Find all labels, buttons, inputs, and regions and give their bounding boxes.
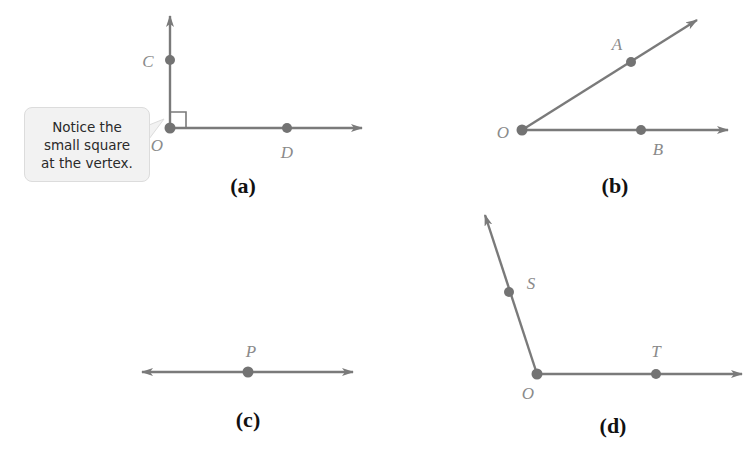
point-o-a bbox=[165, 123, 176, 134]
point-t bbox=[651, 369, 661, 379]
callout-notice-square: Notice the small square at the vertex. bbox=[24, 107, 150, 182]
callout-line-2: small square bbox=[44, 136, 130, 154]
label-p: P bbox=[246, 342, 256, 362]
point-s bbox=[504, 287, 514, 297]
label-o-a: O bbox=[151, 136, 163, 156]
point-o-b bbox=[517, 125, 528, 136]
callout-line-3: at the vertex. bbox=[41, 154, 133, 172]
figure-a-right-angle bbox=[149, 16, 362, 139]
label-s: S bbox=[527, 274, 536, 294]
point-b bbox=[636, 125, 646, 135]
label-c: C bbox=[142, 52, 153, 72]
callout-line-1: Notice the bbox=[52, 118, 122, 136]
point-d bbox=[282, 123, 292, 133]
label-o-d: O bbox=[522, 384, 534, 404]
caption-a: (a) bbox=[230, 173, 256, 199]
geometry-canvas bbox=[0, 0, 755, 456]
angle-figures-diagram: Notice the small square at the vertex. C… bbox=[0, 0, 755, 456]
caption-c: (c) bbox=[236, 407, 260, 433]
label-b: B bbox=[653, 140, 663, 160]
caption-b: (b) bbox=[602, 173, 629, 199]
figure-b-acute-angle bbox=[517, 20, 729, 136]
point-a bbox=[626, 57, 636, 67]
label-d: D bbox=[281, 143, 293, 163]
point-o-d bbox=[532, 369, 543, 380]
caption-d: (d) bbox=[600, 413, 627, 439]
label-o-b: O bbox=[497, 123, 509, 143]
figure-c-straight-line bbox=[142, 367, 353, 378]
label-t: T bbox=[651, 342, 660, 362]
point-c bbox=[165, 55, 175, 65]
ray-oa bbox=[522, 20, 697, 130]
point-p bbox=[243, 367, 254, 378]
label-a: A bbox=[612, 35, 622, 55]
figure-d-obtuse-angle bbox=[485, 215, 742, 380]
